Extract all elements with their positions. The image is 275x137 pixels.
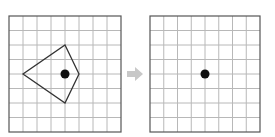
diagram-canvas xyxy=(0,0,275,137)
right-arrow-icon xyxy=(127,67,143,81)
rotation-center-dot-right xyxy=(201,70,210,79)
rotation-center-dot-left xyxy=(61,70,70,79)
